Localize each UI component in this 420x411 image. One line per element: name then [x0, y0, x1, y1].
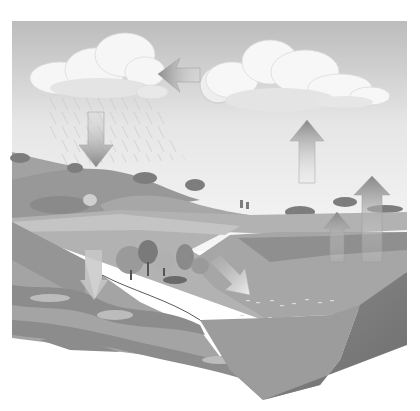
water-cycle-illustration	[0, 0, 420, 411]
water-cycle-svg	[0, 0, 420, 411]
bush-left	[30, 196, 90, 214]
bush-light	[83, 194, 97, 206]
water-front-face	[200, 305, 360, 400]
